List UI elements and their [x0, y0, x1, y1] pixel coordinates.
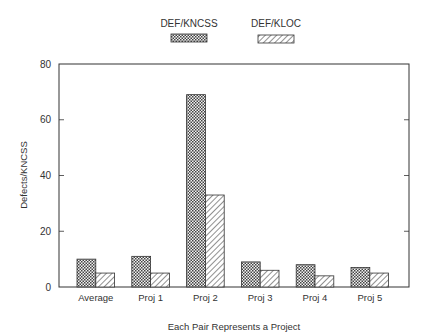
- y-tick-label: 40: [40, 170, 52, 181]
- x-axis-label: Each Pair Represents a Project: [168, 321, 301, 332]
- x-tick-label: Proj 3: [248, 292, 273, 303]
- x-tick-label: Proj 4: [303, 292, 328, 303]
- legend: DEF/KNCSS DEF/KLOC: [160, 18, 301, 43]
- y-tick-label: 80: [40, 59, 52, 70]
- bar-def-kncss-proj-5: [351, 267, 370, 287]
- bar-def-kncss-average: [77, 259, 96, 287]
- x-tick-label: Proj 5: [357, 292, 382, 303]
- bar-def-kncss-proj-3: [241, 262, 260, 287]
- bar-def-kloc-proj-4: [315, 276, 334, 287]
- bar-def-kncss-proj-2: [187, 95, 206, 287]
- legend-item-kloc: DEF/KLOC: [251, 18, 301, 43]
- bars: [77, 95, 389, 287]
- bar-def-kloc-proj-5: [370, 273, 389, 287]
- plot-frame: [59, 64, 409, 287]
- legend-label-kloc: DEF/KLOC: [251, 18, 301, 29]
- x-tick-label: Proj 1: [138, 292, 163, 303]
- y-axis-label: Defects/KNCSS: [18, 141, 29, 209]
- legend-swatch-kncss: [171, 34, 207, 42]
- bar-def-kncss-proj-4: [296, 265, 315, 287]
- x-axis-labels: AverageProj 1Proj 2Proj 3Proj 4Proj 5: [78, 292, 382, 303]
- y-tick-label: 20: [40, 226, 52, 237]
- bar-def-kloc-average: [96, 273, 115, 287]
- y-tick-label: 60: [40, 114, 52, 125]
- bar-chart: DEF/KNCSS DEF/KLOC 020406080 AverageProj…: [0, 0, 428, 336]
- bar-def-kloc-proj-2: [205, 195, 224, 287]
- bar-def-kloc-proj-1: [151, 273, 170, 287]
- bar-def-kncss-proj-1: [132, 256, 151, 287]
- plot-area: 020406080 AverageProj 1Proj 2Proj 3Proj …: [40, 59, 409, 304]
- x-tick-label: Average: [78, 292, 113, 303]
- bar-def-kloc-proj-3: [260, 270, 279, 287]
- legend-label-kncss: DEF/KNCSS: [160, 18, 218, 29]
- x-tick-label: Proj 2: [193, 292, 218, 303]
- y-tick-label: 0: [45, 282, 51, 293]
- legend-swatch-kloc: [258, 35, 294, 43]
- legend-item-kncss: DEF/KNCSS: [160, 18, 218, 42]
